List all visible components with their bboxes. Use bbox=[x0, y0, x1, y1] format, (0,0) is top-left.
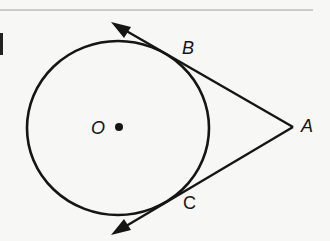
arrowhead-up-icon bbox=[111, 22, 131, 38]
label-a: A bbox=[301, 117, 313, 135]
tangent-diagram bbox=[0, 0, 330, 241]
label-o: O bbox=[91, 119, 105, 137]
tangent-ray-ab bbox=[116, 25, 293, 127]
diagram-canvas: O B C A bbox=[0, 0, 330, 241]
arrowhead-down-icon bbox=[111, 219, 131, 235]
label-b: B bbox=[182, 39, 194, 57]
tangent-ray-ac bbox=[116, 127, 293, 232]
label-c: C bbox=[183, 194, 196, 212]
center-point-o bbox=[115, 123, 123, 131]
